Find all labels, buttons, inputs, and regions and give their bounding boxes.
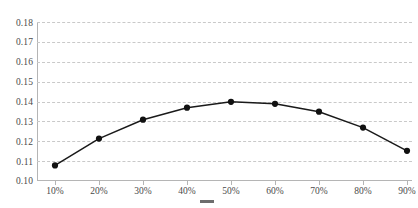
y-tick-label: 0.18: [0, 19, 33, 29]
data-point-marker: [228, 99, 234, 105]
data-point-marker: [316, 109, 322, 115]
data-point-marker: [184, 105, 190, 111]
y-tick-label: 0.11: [0, 158, 33, 168]
data-point-marker: [140, 117, 146, 123]
data-point-marker: [404, 148, 410, 154]
x-tick-mark: [319, 181, 320, 185]
y-tick-label: 0.14: [0, 98, 33, 108]
y-tick-label: 0.10: [0, 177, 33, 187]
x-tick-mark: [187, 181, 188, 185]
series-polyline: [55, 102, 407, 166]
data-point-marker: [96, 136, 102, 142]
y-tick-label: 0.16: [0, 58, 33, 68]
figure-caption: [0, 196, 418, 207]
x-tick-mark: [99, 181, 100, 185]
y-tick-label: 0.17: [0, 38, 33, 48]
x-tick-mark: [363, 181, 364, 185]
y-tick-label: 0.12: [0, 138, 33, 148]
y-tick-label: 0.13: [0, 118, 33, 128]
legend-line-swatch: [200, 200, 214, 203]
chart-figure: 0.18 0.17 0.16 0.15 0.14 0.13 0.12 0.11 …: [0, 0, 418, 208]
x-tick-mark: [275, 181, 276, 185]
x-tick-mark: [407, 181, 408, 185]
x-tick-mark: [231, 181, 232, 185]
y-tick-label: 0.15: [0, 78, 33, 88]
plot-area: 10% 20% 30% 40% 50% 60% 70% 80% 90%: [37, 22, 412, 181]
x-tick-mark: [143, 181, 144, 185]
x-tick-mark: [55, 181, 56, 185]
data-point-marker: [360, 125, 366, 131]
data-point-marker: [52, 162, 58, 168]
data-point-marker: [272, 101, 278, 107]
data-series-line: [37, 22, 412, 181]
